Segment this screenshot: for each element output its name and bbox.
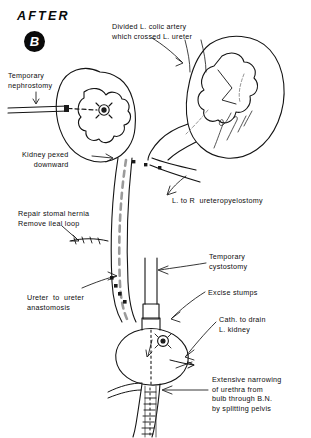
label-kidney-pexed-downward: Kidney pexed downward: [22, 150, 69, 169]
label-ureteropyelostomy: L. to R ureteropyelostomy: [172, 196, 263, 206]
label-temporary-nephrostomy: Temporary nephrostomy: [8, 71, 52, 90]
label-ureter-anastomosis: Ureter to ureter anastomosis: [27, 293, 84, 312]
cystostomy-tube: [143, 258, 159, 319]
bladder: [116, 318, 188, 385]
label-cath-to-drain: Cath. to drain L. kidney: [219, 315, 266, 334]
left-kidney-outline: [148, 36, 284, 160]
right-kidney-outline: [56, 68, 135, 162]
artist-signature: [214, 111, 252, 148]
page-title: AFTER: [17, 9, 70, 23]
pelvic-floor-line: [108, 383, 142, 398]
label-divided-colic-artery: Divided L. colic artery which crossed L.…: [112, 22, 192, 41]
surgical-illustration-figure: AFTER B Divided L. colic artery which cr…: [0, 0, 311, 438]
urethra: [133, 384, 160, 437]
ureter: [111, 158, 136, 323]
right-kidney-collecting-system: [78, 88, 130, 142]
excised-stumps: [170, 360, 194, 368]
bladder-stump-detail: [155, 334, 171, 348]
label-repair-stomal-hernia: Repair stomal hernia Remove ileal loop: [18, 209, 89, 228]
label-excise-stumps: Excise stumps: [208, 288, 258, 298]
label-extensive-narrowing: Extensive narrowing of urethra from bulb…: [212, 375, 281, 413]
left-kidney-collecting-system: [186, 53, 257, 134]
nephrostomy-tube: [8, 105, 97, 113]
label-temporary-cystostomy: Temporary cystostomy: [209, 252, 247, 271]
panel-letter-badge: B: [24, 31, 45, 52]
divided-colic-artery-leader: [185, 40, 206, 72]
ureteropyelostomy-anastomosis: [132, 158, 200, 182]
